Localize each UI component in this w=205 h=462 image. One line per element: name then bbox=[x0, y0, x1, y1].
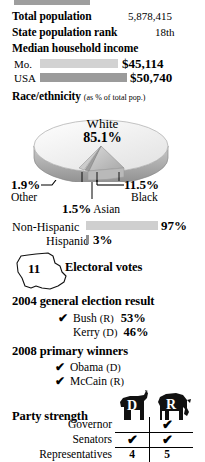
income-heading-wrap: Median household income bbox=[12, 42, 138, 54]
population-rank-label: State population rank bbox=[12, 26, 117, 38]
non-hispanic-value-wrap: 97% bbox=[161, 218, 187, 234]
pie-label-other-wrap: Other bbox=[11, 191, 37, 203]
party-cell-senators-r: ✔ bbox=[150, 432, 184, 448]
pie-value-white-wrap: 85.1% bbox=[0, 130, 205, 146]
pie-label-asian: Asian bbox=[93, 203, 120, 215]
income-bar-usa bbox=[40, 73, 127, 82]
race-heading: Race/ethnicity bbox=[12, 90, 81, 102]
candidate-pct-kerry: 46% bbox=[123, 325, 148, 340]
hispanic-value: 3% bbox=[93, 232, 113, 248]
population-rank-label-wrap: State population rank bbox=[12, 26, 117, 38]
income-row-usa-label: USA bbox=[14, 72, 36, 84]
hispanic-value-wrap: 3% bbox=[93, 232, 113, 248]
race-subheading: (as % of total pop.) bbox=[84, 93, 146, 102]
total-population-label: Total population bbox=[12, 10, 91, 22]
candidate-party-kerry: (D) bbox=[103, 327, 118, 338]
primary-2008-row-obama: ✔ Obama (D) bbox=[55, 361, 121, 373]
race-heading-wrap: Race/ethnicity (as % of total pop.) bbox=[12, 90, 145, 102]
primary-party-mccain: (R) bbox=[110, 376, 124, 387]
pie-label-black: Black bbox=[131, 191, 158, 203]
primary-name-obama: Obama bbox=[70, 361, 103, 373]
population-rank-value: 18th bbox=[155, 26, 175, 38]
non-hispanic-bar bbox=[86, 221, 158, 230]
primary-2008-heading: 2008 primary winners bbox=[12, 344, 128, 359]
party-row-label-governor: Governor bbox=[0, 418, 112, 430]
pie-asian-callout: 1.5% Asian bbox=[62, 201, 120, 217]
header-accent-bar bbox=[14, 0, 90, 5]
electoral-votes-label-wrap: Electoral votes bbox=[65, 260, 142, 275]
primary-2008-heading-wrap: 2008 primary winners bbox=[12, 344, 128, 359]
pie-label-black-wrap: Black bbox=[131, 191, 158, 203]
hispanic-label-wrap: Hispanic bbox=[46, 234, 89, 249]
winner-check-icon: ✔ bbox=[58, 312, 71, 324]
callout-line-other bbox=[41, 180, 56, 185]
primary-party-obama: (D) bbox=[106, 362, 121, 373]
state-profile-card: Total population 5,878,415 State populat… bbox=[0, 0, 205, 462]
pie-label-other: Other bbox=[11, 191, 37, 203]
general-2004-heading: 2004 general election result bbox=[12, 294, 154, 309]
party-cell-governor-r: ✔ bbox=[150, 417, 184, 433]
income-row-mo-label: Mo. bbox=[14, 58, 32, 70]
hispanic-label: Hispanic bbox=[46, 234, 89, 249]
primary-2008-row-mccain: ✔ McCain (R) bbox=[55, 375, 124, 387]
candidate-pct-bush: 53% bbox=[121, 311, 146, 326]
electoral-votes-number-wrap: 11 bbox=[28, 261, 40, 277]
income-value-usa-wrap: $50,740 bbox=[130, 70, 172, 86]
general-2004-heading-wrap: 2004 general election result bbox=[12, 294, 154, 309]
income-heading: Median household income bbox=[12, 42, 138, 54]
non-hispanic-label: Non-Hispanic bbox=[12, 220, 79, 235]
total-population-value-wrap: 5,878,415 bbox=[128, 10, 172, 22]
party-cell-senators-d: ✔ bbox=[115, 432, 149, 448]
candidate-name-kerry: Kerry bbox=[73, 326, 100, 338]
income-row-mo-label-wrap: Mo. bbox=[14, 58, 32, 70]
party-row-label-senators: Senators bbox=[0, 433, 112, 445]
income-value-usa: $50,740 bbox=[130, 70, 172, 86]
winner-check-icon: ✔ bbox=[55, 375, 68, 387]
population-rank-value-wrap: 18th bbox=[155, 26, 175, 38]
winner-check-icon: ✔ bbox=[55, 361, 68, 373]
general-2004-row-kerry: Kerry (D) 46% bbox=[58, 325, 148, 340]
electoral-votes-label: Electoral votes bbox=[65, 260, 142, 275]
party-row-label-representatives: Representatives bbox=[0, 448, 112, 460]
candidate-name-bush: Bush bbox=[73, 312, 97, 324]
total-population-value: 5,878,415 bbox=[128, 10, 172, 22]
party-cell-representatives-d: 4 bbox=[115, 448, 149, 460]
electoral-votes-number: 11 bbox=[28, 261, 40, 277]
income-row-usa-label-wrap: USA bbox=[14, 72, 36, 84]
pie-value-white: 85.1% bbox=[83, 130, 122, 146]
general-2004-row-bush: ✔ Bush (R) 53% bbox=[58, 311, 146, 326]
primary-name-mccain: McCain bbox=[70, 375, 107, 387]
pie-value-asian: 1.5% bbox=[62, 201, 91, 217]
candidate-party-bush: (R) bbox=[100, 313, 114, 324]
hispanic-bar bbox=[86, 235, 89, 244]
non-hispanic-value: 97% bbox=[161, 218, 187, 234]
party-col-d-letter: D bbox=[127, 398, 137, 414]
party-col-r-letter: R bbox=[166, 397, 176, 413]
income-bar-mo bbox=[40, 59, 118, 68]
party-cell-representatives-r: 5 bbox=[150, 448, 184, 460]
non-hispanic-label-wrap: Non-Hispanic bbox=[12, 220, 79, 235]
total-population-label-wrap: Total population bbox=[12, 10, 91, 22]
